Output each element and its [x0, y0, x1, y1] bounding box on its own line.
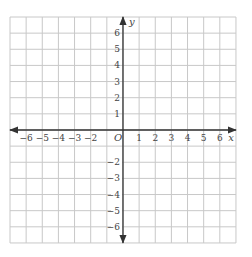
x-tick-label: −5: [36, 133, 50, 143]
y-tick-label: 3: [114, 77, 120, 87]
y-tick-label: −3: [107, 173, 121, 183]
axes: [10, 17, 236, 243]
x-tick-label: 5: [201, 133, 207, 143]
y-tick-label: −4: [107, 190, 121, 200]
y-tick-label: 1: [114, 109, 120, 119]
x-tick-label: −4: [52, 133, 66, 143]
y-tick-label: 4: [114, 60, 120, 70]
y-axis-label: y: [128, 16, 135, 27]
x-tick-label: −2: [84, 133, 97, 143]
x-tick-label: 4: [185, 133, 191, 143]
y-tick-label: −5: [107, 206, 121, 216]
x-tick-label: 1: [136, 133, 142, 143]
y-tick-label: −6: [107, 222, 121, 232]
x-tick-label: 3: [169, 133, 175, 143]
coordinate-plane: −6−5−4−3−2123456 654321−2−3−4−5−6 x y O: [0, 0, 252, 257]
x-tick-label: 2: [152, 133, 158, 143]
y-tick-label: 2: [114, 93, 120, 103]
y-tick-label: −2: [107, 157, 120, 167]
x-axis-label: x: [228, 132, 234, 143]
x-tick-label: −6: [19, 133, 33, 143]
x-tick-label: −3: [68, 133, 82, 143]
origin-label: O: [114, 132, 122, 143]
x-tick-label: 6: [217, 133, 223, 143]
y-tick-label: 5: [114, 44, 120, 54]
y-tick-label: 6: [114, 28, 120, 38]
